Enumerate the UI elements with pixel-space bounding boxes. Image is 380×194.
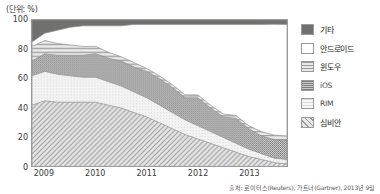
x-axis-labels: 20092010201120122013	[31, 169, 288, 181]
x-axis-tick-label: 2012	[188, 169, 208, 178]
legend-item-windows[interactable]: 윈도우	[301, 61, 354, 72]
y-axis-tick-label: 100	[2, 15, 28, 24]
x-axis-tick-label: 2013	[239, 169, 259, 178]
y-axis-tick-label: 20	[2, 133, 28, 142]
legend-item-rim[interactable]: RIM	[301, 98, 354, 109]
plot-frame	[31, 19, 288, 167]
legend-item-android[interactable]: 안드로이드	[301, 43, 354, 54]
white-empty-swatch	[301, 43, 314, 54]
legend-label: 윈도우	[320, 61, 340, 72]
y-axis-tick-label: 60	[2, 74, 28, 83]
legend-label: 안드로이드	[320, 43, 354, 54]
legend-item-symbian[interactable]: 심비안	[301, 117, 354, 128]
unit-label: (단위: %)	[6, 3, 38, 14]
legend-label: 기타	[320, 24, 334, 35]
chart-legend: 기타 안드로이드 윈도우 iOS RIM 심비안	[301, 24, 354, 128]
legend-item-etc[interactable]: 기타	[301, 24, 354, 35]
legend-label: iOS	[320, 81, 332, 90]
light-dot-swatch	[301, 98, 314, 109]
legend-label: RIM	[320, 99, 333, 108]
chart-plot-area	[31, 19, 288, 167]
x-axis-tick-label: 2011	[136, 169, 156, 178]
y-axis-tick-label: 0	[2, 163, 28, 172]
dense-dot-gray-swatch	[301, 80, 314, 91]
legend-item-ios[interactable]: iOS	[301, 80, 354, 91]
horizontal-lines-swatch	[301, 61, 314, 72]
legend-label: 심비안	[320, 117, 340, 128]
stacked-area-series	[32, 20, 287, 167]
x-axis-tick-label: 2009	[34, 169, 54, 178]
y-axis-tick-label: 40	[2, 103, 28, 112]
solid-dark-gray-swatch	[301, 24, 314, 35]
y-axis-labels: 020406080100	[0, 19, 28, 167]
y-axis-tick-label: 80	[2, 44, 28, 53]
x-axis-tick-label: 2010	[85, 169, 105, 178]
diagonal-hatch-swatch	[301, 117, 314, 128]
source-note: 출처: 로이터스(Reuters), 가트너(Gartner), 2013년 9…	[229, 183, 375, 192]
